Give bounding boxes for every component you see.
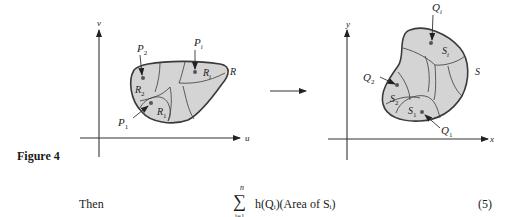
- right-plot: y x Qi Q2 Q1 Si S2 S1 S: [328, 1, 494, 160]
- label-qi: Qi: [432, 1, 442, 16]
- point-q1: [420, 110, 424, 114]
- label-r: R: [229, 66, 236, 77]
- sum-symbol: ∑: [233, 192, 246, 210]
- equation-number: (5): [478, 197, 492, 212]
- label-pi: Pi: [193, 36, 203, 51]
- region-s: [382, 28, 467, 121]
- label-p1: P1: [117, 116, 129, 131]
- label-p2: P2: [136, 42, 148, 57]
- label-s: S: [475, 66, 480, 77]
- region-r: [131, 61, 228, 122]
- y-axis-label: y: [345, 19, 350, 29]
- label-q2: Q2: [363, 71, 375, 86]
- point-pi: [193, 70, 197, 74]
- u-axis-label: u: [245, 133, 250, 143]
- point-qi: [429, 41, 433, 45]
- equation-lead-word: Then: [79, 197, 104, 212]
- equation-expression: h(Qᵢ)(Area of Sᵢ): [255, 197, 336, 212]
- x-axis-label: x: [489, 134, 494, 144]
- left-plot: v u P2 Pi P1 R2 R1 Ri R: [80, 18, 250, 157]
- sum-lower-limit: i=1: [235, 212, 244, 217]
- point-p1: [149, 101, 153, 105]
- point-p2: [141, 76, 145, 80]
- v-axis-label: v: [97, 18, 101, 28]
- point-q2: [395, 83, 399, 87]
- figure-4-diagram: v u P2 Pi P1 R2 R1 Ri R y x: [0, 0, 520, 217]
- label-q1: Q1: [441, 124, 453, 139]
- figure-caption: Figure 4: [17, 149, 60, 164]
